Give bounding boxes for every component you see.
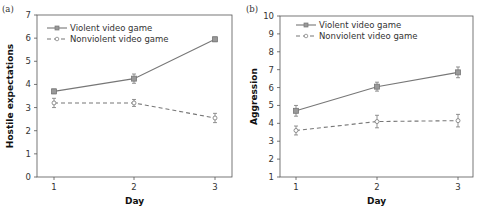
data-point-square (375, 84, 380, 89)
data-point-circle (456, 119, 460, 123)
data-point-square (456, 70, 461, 75)
x-tick-label: 3 (212, 182, 217, 192)
data-point-circle (132, 101, 136, 105)
legend-label: Nonviolent video game (70, 34, 169, 44)
y-axis-label: Aggression (249, 68, 259, 125)
x-tick-label: 2 (374, 182, 379, 192)
x-axis-label: Day (125, 196, 144, 206)
x-tick-label: 1 (293, 182, 298, 192)
data-point-square (52, 89, 57, 94)
y-tick-label: 5 (26, 56, 31, 66)
x-axis-label: Day (367, 196, 386, 206)
data-point-circle (213, 116, 217, 120)
y-tick-label: 7 (269, 65, 274, 75)
x-tick-label: 3 (455, 182, 460, 192)
y-tick-label: 7 (26, 10, 31, 20)
y-tick-label: 8 (269, 47, 274, 57)
series-line (296, 72, 458, 110)
y-tick-label: 3 (26, 103, 31, 113)
y-tick-label: 6 (26, 33, 31, 43)
chart-panel-a: (a)01234567123DayHostile expectationsVio… (2, 4, 232, 206)
y-tick-label: 4 (269, 118, 274, 128)
y-tick-label: 5 (269, 100, 274, 110)
y-tick-label: 3 (269, 136, 274, 146)
data-point-square (132, 76, 137, 81)
y-tick-label: 2 (26, 126, 31, 136)
legend-label: Nonviolent video game (319, 31, 418, 41)
legend-label: Violent video game (70, 23, 152, 33)
y-tick-label: 0 (26, 172, 31, 182)
chart-panel-b: (b)12345678910123DayAggressionViolent vi… (246, 4, 473, 206)
y-tick-label: 4 (26, 79, 31, 89)
figure: (a)01234567123DayHostile expectationsVio… (0, 0, 478, 210)
data-point-circle (52, 101, 56, 105)
data-point-square (294, 108, 299, 113)
y-tick-label: 2 (269, 154, 274, 164)
data-point-circle (294, 128, 298, 132)
y-tick-label: 1 (26, 149, 31, 159)
y-tick-label: 9 (269, 29, 274, 39)
y-tick-label: 6 (269, 83, 274, 93)
y-axis-label: Hostile expectations (5, 44, 15, 148)
data-point-circle (375, 120, 379, 124)
x-tick-label: 2 (131, 182, 136, 192)
data-point-square (213, 37, 218, 42)
panel-label: (a) (2, 4, 14, 14)
y-tick-label: 10 (263, 11, 274, 21)
panel-label: (b) (246, 4, 258, 14)
x-tick-label: 1 (51, 182, 56, 192)
y-tick-label: 1 (269, 172, 274, 182)
legend-label: Violent video game (319, 20, 401, 30)
